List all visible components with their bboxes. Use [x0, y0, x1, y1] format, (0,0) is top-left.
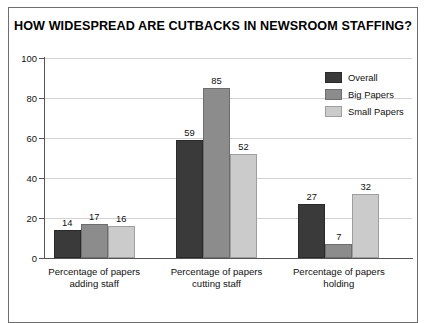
- bar-value-label: 32: [361, 181, 371, 192]
- y-axis-tick: [39, 258, 44, 259]
- bar: [81, 224, 108, 258]
- legend-item: Overall: [325, 69, 404, 86]
- y-axis-tick-label: 100: [3, 53, 37, 64]
- legend-item: Small Papers: [325, 103, 404, 120]
- bar-value-label: 14: [62, 217, 72, 228]
- legend-swatch-icon: [325, 72, 342, 83]
- x-axis-category-label: Percentage of paperscutting staff: [171, 266, 263, 291]
- bar: [325, 244, 352, 258]
- bar: [108, 226, 135, 258]
- y-axis-tick-label: 20: [3, 213, 37, 224]
- x-axis-line: [44, 258, 413, 259]
- legend-label: Small Papers: [348, 106, 404, 117]
- y-axis-tick-labels: 020406080100: [0, 0, 37, 319]
- y-axis-tick: [39, 138, 44, 139]
- y-axis-tick-label: 60: [3, 133, 37, 144]
- x-axis-category-label: Percentage of papersholding: [293, 266, 385, 291]
- bar: [54, 230, 81, 258]
- bar-value-label: 27: [307, 191, 317, 202]
- y-axis-tick: [39, 218, 44, 219]
- bar-value-label: 85: [211, 75, 221, 86]
- x-axis-category-label-line: holding: [293, 278, 385, 290]
- x-axis-category-label-line: cutting staff: [171, 278, 263, 290]
- bar-value-label: 59: [184, 127, 194, 138]
- chart-legend: OverallBig PapersSmall Papers: [325, 69, 404, 120]
- y-axis-tick: [39, 178, 44, 179]
- legend-label: Big Papers: [348, 89, 394, 100]
- bar-value-label: 7: [336, 231, 341, 242]
- bar-value-label: 17: [89, 211, 99, 222]
- x-axis-category-label-line: Percentage of papers: [48, 266, 140, 278]
- bar-value-label: 16: [116, 213, 126, 224]
- legend-item: Big Papers: [325, 86, 404, 103]
- bar: [298, 204, 325, 258]
- x-axis-category-label-line: adding staff: [48, 278, 140, 290]
- bar: [352, 194, 379, 258]
- x-axis-category-label: Percentage of papersadding staff: [48, 266, 140, 291]
- x-axis-category-label-line: Percentage of papers: [293, 266, 385, 278]
- gridline: [45, 58, 412, 59]
- y-axis-tick-label: 0: [3, 253, 37, 264]
- bar: [203, 88, 230, 258]
- bar: [176, 140, 203, 258]
- legend-swatch-icon: [325, 106, 342, 117]
- y-axis-tick: [39, 98, 44, 99]
- y-axis-tick-label: 80: [3, 93, 37, 104]
- chart-title: HOW WIDESPREAD ARE CUTBACKS IN NEWSROOM …: [8, 19, 418, 33]
- legend-swatch-icon: [325, 89, 342, 100]
- bar: [230, 154, 257, 258]
- y-axis-tick: [39, 58, 44, 59]
- y-axis-tick-label: 40: [3, 173, 37, 184]
- x-axis-category-label-line: Percentage of papers: [171, 266, 263, 278]
- bar-value-label: 52: [238, 141, 248, 152]
- legend-label: Overall: [348, 72, 378, 83]
